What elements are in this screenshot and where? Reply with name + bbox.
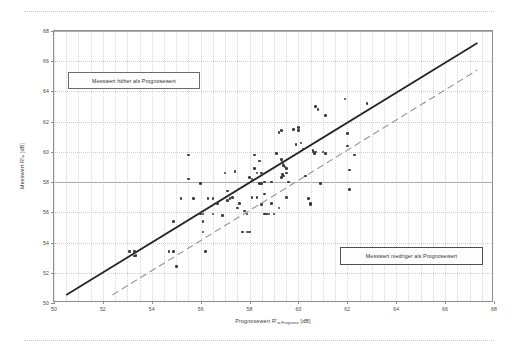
y-tick-mark [51, 243, 54, 244]
x-tick-mark [250, 301, 251, 304]
gridline-vertical [286, 31, 287, 301]
data-point [275, 152, 278, 155]
page-rule-bottom [24, 340, 494, 341]
y-tick-label: 64 [43, 88, 49, 94]
data-point [304, 175, 307, 178]
data-point [302, 148, 305, 151]
x-tick-mark [298, 301, 299, 304]
gridline-vertical [298, 31, 299, 301]
gridline-vertical [54, 31, 55, 301]
data-point [231, 196, 234, 199]
y-tick-label: 62 [43, 119, 49, 125]
data-point [348, 169, 351, 172]
gridline-horizontal [54, 152, 492, 153]
data-point [309, 202, 312, 205]
x-axis-title-main: Prognosewert R' [235, 318, 277, 324]
data-point [135, 254, 138, 257]
data-point [187, 154, 190, 157]
gridline-horizontal [54, 91, 492, 92]
y-axis-title-subscript: w [20, 155, 25, 158]
data-point [202, 220, 205, 223]
annotation-messwert-hoeher: Messwert höher als Prognosewert [68, 72, 200, 89]
data-point [297, 129, 300, 132]
data-point [226, 199, 229, 202]
data-point [353, 154, 356, 157]
y-tick-mark [51, 122, 54, 123]
gridline-horizontal [54, 182, 492, 183]
gridline-horizontal [54, 273, 492, 274]
gridline-vertical [213, 31, 214, 301]
y-tick-mark [51, 212, 54, 213]
x-tick-label: 58 [247, 306, 253, 312]
x-tick-label: 50 [51, 306, 57, 312]
data-point [285, 172, 288, 175]
data-point [226, 190, 229, 193]
y-tick-label: 54 [43, 240, 49, 246]
data-point [366, 102, 369, 105]
gridline-horizontal [54, 31, 492, 32]
data-point [234, 170, 237, 173]
y-tick-mark [51, 273, 54, 274]
data-point [243, 210, 246, 213]
data-point [168, 250, 171, 253]
x-tick-label: 64 [393, 306, 399, 312]
data-point [172, 220, 175, 223]
data-point [248, 231, 251, 234]
gridline-vertical [225, 31, 226, 301]
data-point [300, 142, 303, 145]
data-point [258, 160, 261, 163]
data-point [324, 114, 327, 117]
y-tick-label: 60 [43, 149, 49, 155]
y-axis-title-unit: [dB] [19, 143, 25, 155]
data-point [253, 154, 256, 157]
data-point [128, 250, 131, 253]
y-axis-title: Messwert R'w [dB] [19, 143, 26, 189]
x-tick-mark [494, 301, 495, 304]
data-point [241, 231, 244, 234]
y-tick-label: 56 [43, 209, 49, 215]
data-point [133, 250, 136, 253]
data-point [221, 214, 224, 217]
data-point [216, 202, 219, 205]
data-point [324, 152, 327, 155]
data-point [172, 250, 175, 253]
data-point [204, 250, 207, 253]
data-point [280, 176, 283, 179]
y-tick-label: 68 [43, 28, 49, 34]
x-tick-mark [54, 301, 55, 304]
data-point [202, 231, 205, 234]
data-point [278, 207, 281, 210]
y-tick-mark [51, 61, 54, 62]
y-tick-label: 50 [43, 300, 49, 306]
x-tick-mark [152, 301, 153, 304]
data-point [313, 152, 316, 155]
data-point [346, 132, 349, 135]
data-point [348, 188, 351, 191]
x-tick-mark [103, 301, 104, 304]
x-tick-label: 54 [149, 306, 155, 312]
data-point [256, 196, 259, 199]
x-tick-mark [201, 301, 202, 304]
gridline-horizontal [54, 243, 492, 244]
data-point [346, 145, 349, 148]
data-point [238, 202, 241, 205]
y-tick-label: 66 [43, 58, 49, 64]
y-axis-title-main: Messwert R' [19, 158, 25, 189]
scanned-page-frame: Messwert R'w [dB] Prognosewert R'w,Progn… [0, 0, 518, 356]
page-rule-top [24, 11, 494, 12]
data-point [319, 182, 322, 185]
y-tick-mark [51, 152, 54, 153]
x-tick-mark [347, 301, 348, 304]
gridline-vertical [237, 31, 238, 301]
x-tick-mark [445, 301, 446, 304]
data-point [253, 167, 256, 170]
y-tick-mark [51, 182, 54, 183]
data-point [285, 196, 288, 199]
gridline-vertical [323, 31, 324, 301]
gridline-horizontal [54, 61, 492, 62]
x-tick-label: 60 [295, 306, 301, 312]
data-point [270, 202, 273, 205]
data-point [199, 182, 202, 185]
y-tick-label: 52 [43, 270, 49, 276]
gridline-vertical [335, 31, 336, 301]
